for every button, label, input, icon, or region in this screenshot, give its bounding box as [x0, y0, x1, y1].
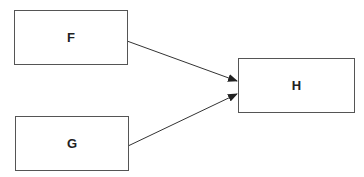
node-h: H: [238, 58, 355, 113]
node-f-label: F: [67, 30, 75, 45]
node-h-label: H: [292, 78, 301, 93]
edge-f-to-h: [127, 41, 237, 81]
node-f: F: [14, 10, 128, 65]
edge-g-to-h: [128, 94, 237, 146]
node-g-label: G: [67, 136, 77, 151]
node-g: G: [15, 116, 129, 171]
